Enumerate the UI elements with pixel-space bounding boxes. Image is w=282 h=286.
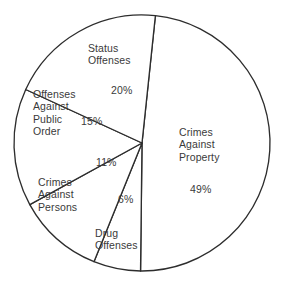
- pie-slice-crimes-against-property[interactable]: [141, 16, 270, 271]
- pie-chart-canvas: [0, 0, 282, 286]
- pie-chart: Crimes Against Property 49% Drug Offense…: [0, 0, 282, 286]
- pie-slice-group: [14, 15, 270, 271]
